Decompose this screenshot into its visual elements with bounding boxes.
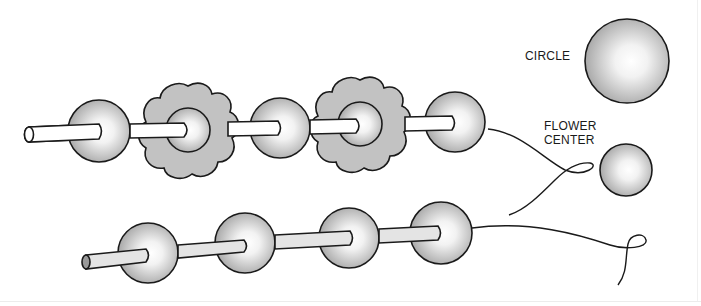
legend-flower-center-shape [600, 144, 652, 196]
circle-label: CIRCLE [525, 49, 570, 64]
legend-circle-shape [585, 19, 669, 103]
rod-segment [130, 123, 187, 138]
legend [585, 19, 669, 196]
top-strand [25, 77, 594, 215]
rod-end-icon [25, 127, 34, 142]
bottom-strand [82, 202, 646, 285]
beading-diagram [0, 0, 701, 306]
flower-center-label-line1: FLOWER [544, 119, 597, 134]
rod-segment [310, 119, 359, 134]
flower-center-label-line2: CENTER [544, 133, 595, 148]
rod-segment [379, 226, 441, 243]
rod-segment [228, 121, 281, 136]
rod-segment [29, 124, 102, 142]
rod-end-icon [82, 255, 90, 269]
bottom-divider [0, 301, 701, 302]
thread [472, 226, 646, 285]
rod-segment [405, 116, 455, 131]
right-divider [697, 0, 698, 301]
